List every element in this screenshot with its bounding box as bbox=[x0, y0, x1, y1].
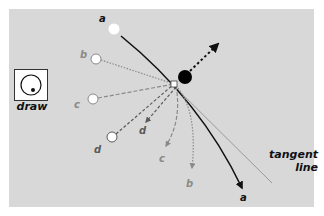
draw-label: draw bbox=[12, 100, 52, 113]
start-marker-a[interactable] bbox=[109, 24, 120, 35]
tangent-line-label: tangent line bbox=[262, 148, 318, 174]
tangent-label-line2: line bbox=[262, 161, 318, 174]
end-label-c: c bbox=[159, 153, 165, 164]
ball-velocity-arrow bbox=[190, 44, 218, 71]
contact-point bbox=[171, 81, 177, 87]
start-marker-c[interactable] bbox=[88, 94, 98, 104]
start-label-b: b bbox=[80, 49, 87, 60]
start-label-c: c bbox=[74, 99, 80, 110]
start-marker-b[interactable] bbox=[91, 54, 101, 64]
start-marker-d[interactable] bbox=[107, 132, 117, 142]
start-label-a: a bbox=[99, 13, 106, 24]
draw-button[interactable] bbox=[14, 69, 48, 101]
end-label-b: b bbox=[186, 178, 193, 189]
path-c-out bbox=[166, 86, 178, 146]
circle-with-dot-icon bbox=[15, 70, 47, 100]
tangent-line bbox=[172, 84, 272, 183]
start-label-d: d bbox=[94, 144, 102, 155]
end-label-a: a bbox=[240, 192, 247, 203]
path-a bbox=[121, 36, 242, 188]
ball[interactable] bbox=[178, 70, 192, 84]
path-b-in bbox=[101, 60, 174, 84]
path-b-out bbox=[176, 86, 193, 168]
tangent-label-line1: tangent bbox=[262, 148, 318, 161]
end-label-d: d bbox=[139, 125, 147, 136]
path-c-in bbox=[98, 84, 174, 98]
